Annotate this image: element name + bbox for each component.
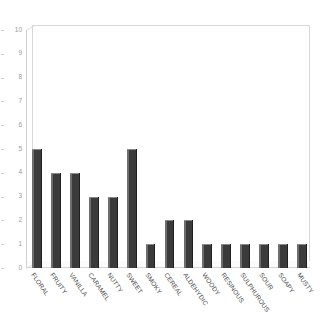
bar-left-face xyxy=(32,149,34,268)
y-axis-tick-mark xyxy=(1,197,4,198)
x-axis-label-slot: SOUR xyxy=(253,270,272,329)
x-axis-label-slot: NUTTY xyxy=(102,270,121,329)
bar-left-face xyxy=(202,244,204,268)
bar-slot xyxy=(202,30,212,268)
bar[interactable] xyxy=(51,173,61,268)
x-axis-label-slot: MUSTY xyxy=(291,270,310,329)
y-axis-tick-mark xyxy=(1,54,4,55)
bar-right-edge xyxy=(136,149,137,268)
bar[interactable] xyxy=(146,244,156,268)
bar-right-edge xyxy=(154,244,155,268)
bar[interactable] xyxy=(221,244,231,268)
bar[interactable] xyxy=(108,197,118,268)
x-axis-label-slot: CARAMEL xyxy=(83,270,102,329)
y-axis-tick-label: 0 xyxy=(4,265,22,272)
bar[interactable] xyxy=(32,149,42,268)
bar-slot xyxy=(127,30,137,268)
x-axis-label-slot: SULPHUROUS xyxy=(234,270,253,329)
bar-slot xyxy=(259,30,269,268)
bar-left-face xyxy=(278,244,280,268)
bar[interactable] xyxy=(165,220,175,268)
y-axis-tick-label: 9 xyxy=(4,50,22,57)
bar-right-edge xyxy=(249,244,250,268)
bar[interactable] xyxy=(240,244,250,268)
bar-left-face xyxy=(89,197,91,268)
bar-right-edge xyxy=(41,149,42,268)
y-axis-tick-label: 4 xyxy=(4,169,22,176)
bar-left-face xyxy=(70,173,72,268)
bar-right-edge xyxy=(211,244,212,268)
bar-right-edge xyxy=(192,220,193,268)
bar-left-face xyxy=(146,244,148,268)
y-axis-tick-label: 7 xyxy=(4,98,22,105)
bar-slot xyxy=(297,30,307,268)
bar-left-face xyxy=(221,244,223,268)
bar-left-face xyxy=(297,244,299,268)
bar[interactable] xyxy=(202,244,212,268)
bar-slot xyxy=(108,30,118,268)
x-axis-label-slot: ALDEHYDIC xyxy=(177,270,196,329)
y-axis-tick-mark xyxy=(1,220,4,221)
bar-left-face xyxy=(165,220,167,268)
bar-right-edge xyxy=(79,173,80,268)
bar-slot xyxy=(165,30,175,268)
bar-slot xyxy=(184,30,194,268)
bar-left-face xyxy=(240,244,242,268)
bar[interactable] xyxy=(259,244,269,268)
bar[interactable] xyxy=(184,220,194,268)
y-axis-tick-label: 8 xyxy=(4,74,22,81)
bar-series xyxy=(26,30,310,268)
bar-right-edge xyxy=(268,244,269,268)
bar-left-face xyxy=(184,220,186,268)
y-axis-tick-mark xyxy=(1,268,4,269)
x-axis-label-slot: SWEET xyxy=(121,270,140,329)
y-axis-tick-label: 6 xyxy=(4,122,22,129)
y-axis-tick-label: 5 xyxy=(4,146,22,153)
x-axis-label-slot: FLORAL xyxy=(26,270,45,329)
bar-right-edge xyxy=(173,220,174,268)
y-axis-tick-label: 2 xyxy=(4,217,22,224)
y-axis-tick-mark xyxy=(1,173,4,174)
x-axis-label-slot: SMOKY xyxy=(140,270,159,329)
bar-left-face xyxy=(127,149,129,268)
bar[interactable] xyxy=(70,173,80,268)
bar-left-face xyxy=(259,244,261,268)
bar-slot xyxy=(278,30,288,268)
bar-right-edge xyxy=(230,244,231,268)
bar-slot xyxy=(51,30,61,268)
bar-slot xyxy=(70,30,80,268)
x-axis-label-slot: WOODY xyxy=(196,270,215,329)
x-axis-label-slot: SOAPY xyxy=(272,270,291,329)
bar-right-edge xyxy=(306,244,307,268)
x-axis-label-slot: CEREAL xyxy=(159,270,178,329)
y-axis-tick-mark xyxy=(1,125,4,126)
y-axis-tick-mark xyxy=(1,149,4,150)
bar-slot xyxy=(32,30,42,268)
x-axis-label-slot: RESINOUS xyxy=(215,270,234,329)
bar-slot xyxy=(146,30,156,268)
bar[interactable] xyxy=(127,149,137,268)
bar-slot xyxy=(89,30,99,268)
bar-slot xyxy=(221,30,231,268)
bar-slot xyxy=(240,30,250,268)
chart-screenshot: 012345678910 FLORALFRUITYVANILLACARAMELN… xyxy=(0,0,325,329)
bar-right-edge xyxy=(98,197,99,268)
y-axis-tick-mark xyxy=(1,101,4,102)
plot-area xyxy=(26,30,310,268)
x-axis-label-slot: FRUITY xyxy=(45,270,64,329)
bar[interactable] xyxy=(297,244,307,268)
bar[interactable] xyxy=(278,244,288,268)
bar[interactable] xyxy=(89,197,99,268)
bar-right-edge xyxy=(287,244,288,268)
bar-right-edge xyxy=(117,197,118,268)
bar-left-face xyxy=(108,197,110,268)
x-axis-category-label: MUSTY xyxy=(295,272,314,295)
x-axis-category-labels: FLORALFRUITYVANILLACARAMELNUTTYSWEETSMOK… xyxy=(26,270,310,329)
x-axis-label-slot: VANILLA xyxy=(64,270,83,329)
y-axis-tick-label: 10 xyxy=(4,27,22,34)
y-axis-tick-mark xyxy=(1,244,4,245)
y-axis-tick-label: 1 xyxy=(4,241,22,248)
y-axis-tick-mark xyxy=(1,78,4,79)
bar-right-edge xyxy=(60,173,61,268)
y-axis-tick-label: 3 xyxy=(4,193,22,200)
